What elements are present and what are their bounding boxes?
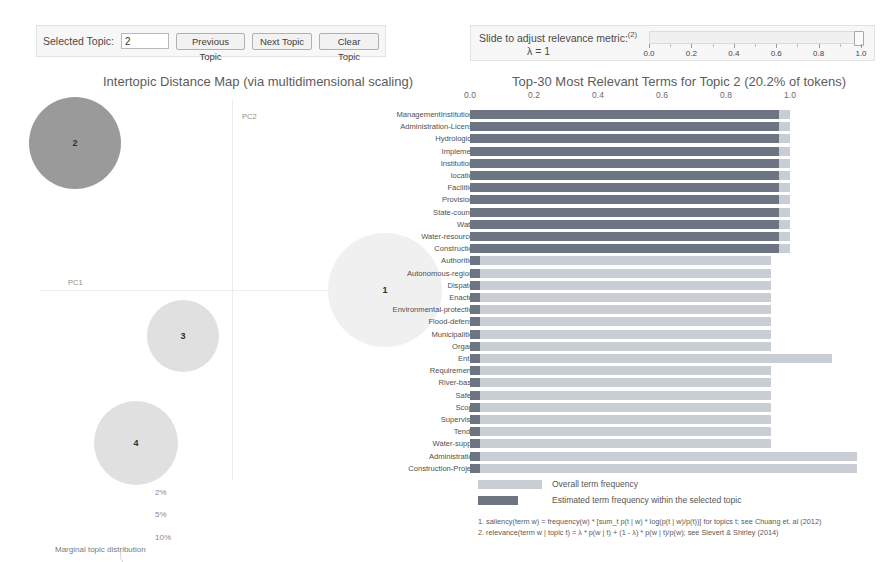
chart-x-tick-label: 1.0: [784, 90, 796, 100]
bar-topic-frequency: [470, 342, 480, 351]
term-bar-row[interactable]: Supervisor: [390, 414, 892, 426]
selected-topic-label: Selected Topic:: [43, 35, 114, 47]
ldavis-visualization: Selected Topic: Previous Topic Next Topi…: [0, 0, 892, 562]
bar-overall-frequency: [470, 354, 832, 363]
bar-topic-frequency: [470, 281, 480, 290]
term-bar-row[interactable]: Entity: [390, 353, 892, 365]
previous-topic-button[interactable]: Previous Topic: [176, 33, 245, 50]
bar-overall-frequency: [470, 366, 771, 375]
slider-tick-label: 0.6: [771, 49, 782, 58]
term-bar-row[interactable]: Water: [390, 219, 892, 231]
next-topic-button[interactable]: Next Topic: [252, 33, 312, 50]
slider-tick-minor: [755, 44, 756, 47]
chart-x-tick-label: 0.4: [592, 90, 604, 100]
bar-topic-frequency: [470, 305, 480, 314]
term-bar-row[interactable]: Municipalities: [390, 329, 892, 341]
map-axis-vertical: [232, 100, 233, 480]
top-terms-title: Top-30 Most Relevant Terms for Topic 2 (…: [512, 74, 846, 89]
term-bar-row[interactable]: Provisions: [390, 194, 892, 206]
term-bar-row[interactable]: River-basin: [390, 377, 892, 389]
bar-topic-frequency: [470, 269, 480, 278]
topic-bubble-label: 1: [382, 285, 387, 295]
term-bar-row[interactable]: Autonomous-regions: [390, 268, 892, 280]
term-bar-row[interactable]: Construction-Project: [390, 463, 892, 475]
relevance-footnote-marker: (2): [628, 30, 637, 39]
topic-bubble-label: 2: [72, 138, 77, 148]
bar-topic-frequency: [470, 330, 480, 339]
bar-topic-frequency: [470, 256, 480, 265]
term-bar-row[interactable]: Environmental-protection: [390, 304, 892, 316]
map-axis-label-pc1: PC1: [68, 278, 83, 287]
term-bar-row[interactable]: Construction: [390, 243, 892, 255]
selected-topic-input[interactable]: [121, 33, 169, 49]
term-bar-row[interactable]: Authorities: [390, 255, 892, 267]
bar-overall-frequency: [470, 342, 771, 351]
bar-topic-frequency: [470, 208, 779, 217]
slider-tick-major: [734, 44, 735, 48]
bubble-size-legend-item: 2%: [155, 488, 167, 497]
bar-topic-frequency: [470, 415, 480, 424]
topic-bubble-3[interactable]: 3: [147, 300, 219, 372]
clear-topic-button[interactable]: Clear Topic: [319, 33, 379, 50]
slider-tick-major: [819, 44, 820, 48]
bar-topic-frequency: [470, 317, 480, 326]
relevance-metric-label: Slide to adjust relevance metric:(2): [479, 30, 637, 44]
bar-overall-frequency: [470, 415, 771, 424]
term-bar-row[interactable]: location: [390, 170, 892, 182]
term-bar-row[interactable]: Facilities: [390, 182, 892, 194]
term-bar-row[interactable]: Scope: [390, 402, 892, 414]
legend-label-overall: Overall term frequency: [552, 478, 638, 491]
term-bar-row[interactable]: Water-resources: [390, 231, 892, 243]
term-label[interactable]: Water-resources: [421, 231, 477, 243]
bar-topic-frequency: [470, 195, 779, 204]
bar-topic-frequency: [470, 452, 480, 461]
topic-bubble-label: 4: [133, 438, 138, 448]
bubble-size-legend-item: 10%: [155, 533, 171, 542]
chart-x-tick-label: 0.8: [720, 90, 732, 100]
term-bar-row[interactable]: Organs: [390, 341, 892, 353]
slider-tick-minor: [713, 44, 714, 47]
term-label[interactable]: Autonomous-regions: [407, 268, 477, 280]
term-label[interactable]: Administration-License: [400, 121, 477, 133]
slider-tick-major: [861, 44, 862, 48]
term-bar-row[interactable]: Flood-defense: [390, 316, 892, 328]
term-bar-row[interactable]: Administration: [390, 451, 892, 463]
relevance-slider-panel: Slide to adjust relevance metric:(2) λ =…: [470, 25, 875, 61]
bar-topic-frequency: [470, 366, 480, 375]
chart-x-tick-label: 0.2: [528, 90, 540, 100]
term-bar-row[interactable]: ManagementInstitutions: [390, 109, 892, 121]
term-label[interactable]: ManagementInstitutions: [396, 109, 477, 121]
term-bar-row[interactable]: Tender: [390, 426, 892, 438]
term-bar-row[interactable]: Institutions: [390, 158, 892, 170]
bar-topic-frequency: [470, 159, 779, 168]
bar-topic-frequency: [470, 464, 480, 473]
term-bar-row[interactable]: Administration-License: [390, 121, 892, 133]
term-bar-row[interactable]: Dispatch: [390, 280, 892, 292]
term-bar-row[interactable]: Water-supply: [390, 438, 892, 450]
bar-topic-frequency: [470, 147, 779, 156]
term-bar-row[interactable]: Hydrological: [390, 133, 892, 145]
marginal-distribution-label: Marginal topic distribution: [55, 545, 146, 554]
chart-x-axis: 0.00.20.40.60.81.0: [390, 90, 892, 104]
legend-label-estimated: Estimated term frequency within the sele…: [552, 494, 741, 507]
term-label[interactable]: Construction-Project: [408, 463, 477, 475]
footnote-relevance: 2. relevance(term w | topic t) = λ * p(w…: [478, 527, 888, 538]
topic-bubble-2[interactable]: 2: [29, 97, 121, 189]
term-label[interactable]: Environmental-protection: [393, 304, 477, 316]
chart-bars: ManagementInstitutionsAdministration-Lic…: [390, 109, 892, 475]
bar-topic-frequency: [470, 293, 480, 302]
term-bar-row[interactable]: Enacted: [390, 292, 892, 304]
topic-bubble-4[interactable]: 4: [94, 401, 178, 485]
relevance-slider-track[interactable]: [649, 31, 861, 44]
term-bar-row[interactable]: State-council: [390, 207, 892, 219]
bubble-size-legend-item: 5%: [155, 510, 167, 519]
legend-row-estimated: Estimated term frequency within the sele…: [478, 494, 888, 508]
bar-overall-frequency: [470, 378, 771, 387]
term-bar-row[interactable]: Implement: [390, 146, 892, 158]
term-bar-row[interactable]: Safety: [390, 390, 892, 402]
bar-overall-frequency: [470, 403, 771, 412]
bar-overall-frequency: [470, 391, 771, 400]
slider-tick-minor: [840, 44, 841, 47]
term-bar-row[interactable]: Requirements: [390, 365, 892, 377]
bar-topic-frequency: [470, 134, 779, 143]
